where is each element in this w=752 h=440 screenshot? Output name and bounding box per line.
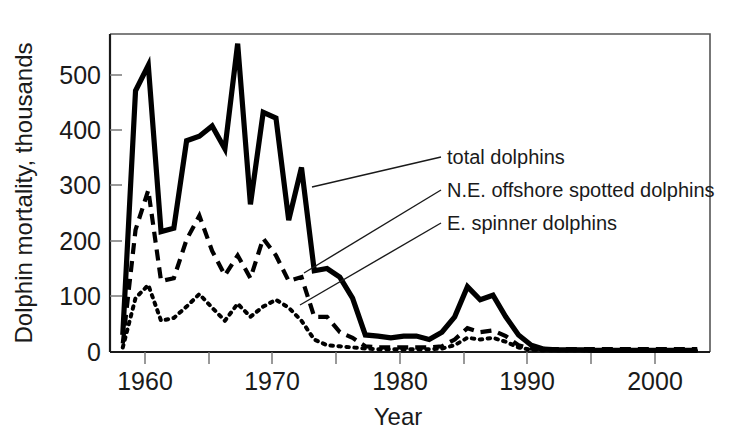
y-tick-label-200: 200 (59, 227, 101, 255)
annotation-spinner-dolphins: E. spinner dolphins (447, 212, 617, 234)
x-tick-label-2000: 2000 (627, 367, 683, 395)
x-axis-tick-labels: 1960 1970 1980 1990 2000 (117, 367, 683, 395)
annotation-spotted-dolphins: N.E. offshore spotted dolphins (447, 179, 715, 201)
x-tick-label-1970: 1970 (244, 367, 300, 395)
x-tick-label-1980: 1980 (372, 367, 428, 395)
y-tick-label-300: 300 (59, 171, 101, 199)
x-tick-label-1960: 1960 (117, 367, 173, 395)
y-axis-tick-labels: 500 400 300 200 100 0 (59, 61, 101, 366)
x-axis-ticks (145, 352, 655, 364)
y-axis-ticks (110, 75, 122, 296)
y-tick-label-500: 500 (59, 61, 101, 89)
y-tick-label-400: 400 (59, 116, 101, 144)
x-tick-label-1990: 1990 (499, 367, 555, 395)
y-axis-title: Dolphin mortality, thousands (10, 42, 37, 343)
annotation-total-dolphins: total dolphins (447, 146, 565, 168)
leader-line-spinner-dolphins (300, 223, 441, 305)
leader-line-total-dolphins (312, 157, 441, 187)
chart-screenshot: 500 400 300 200 100 0 1960 1970 1980 199… (0, 0, 752, 440)
y-tick-label-100: 100 (59, 282, 101, 310)
series-line-e-spinner-dolphins (123, 285, 697, 351)
y-tick-label-0: 0 (87, 338, 101, 366)
leader-line-spotted-dolphins (304, 190, 441, 273)
x-axis-title: Year (374, 403, 423, 430)
dolphin-mortality-chart: 500 400 300 200 100 0 1960 1970 1980 199… (0, 0, 752, 440)
